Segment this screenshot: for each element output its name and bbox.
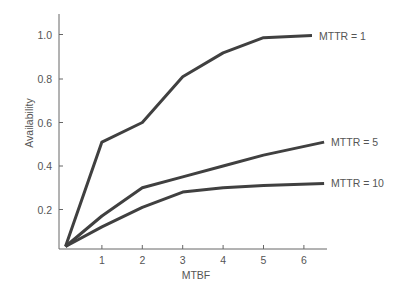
y-tick-label: 0.4 (37, 160, 52, 172)
x-tick-label: 2 (139, 254, 145, 266)
x-tick-label: 6 (301, 254, 307, 266)
series-line-2 (66, 142, 325, 246)
y-axis-title: Availability (23, 98, 35, 148)
x-tick-label: 1 (99, 254, 105, 266)
series-label-1: MTTR = 1 (319, 30, 366, 42)
x-axis-title: MTBF (182, 269, 211, 281)
axes: 1234560.20.40.60.81.0 (37, 14, 327, 266)
series-label-3: MTTR = 10 (331, 177, 384, 189)
y-tick-label: 0.6 (37, 117, 52, 129)
x-tick-label: 4 (220, 254, 226, 266)
x-tick-label: 5 (261, 254, 267, 266)
series-label-2: MTTR = 5 (331, 136, 378, 148)
y-tick-label: 0.2 (37, 204, 52, 216)
y-tick-label: 1.0 (37, 29, 52, 41)
x-tick-label: 3 (180, 254, 186, 266)
series-lines: MTTR = 1MTTR = 5MTTR = 10 (66, 30, 385, 247)
availability-chart: 1234560.20.40.60.81.0 MTTR = 1MTTR = 5MT… (0, 0, 402, 295)
y-tick-label: 0.8 (37, 73, 52, 85)
